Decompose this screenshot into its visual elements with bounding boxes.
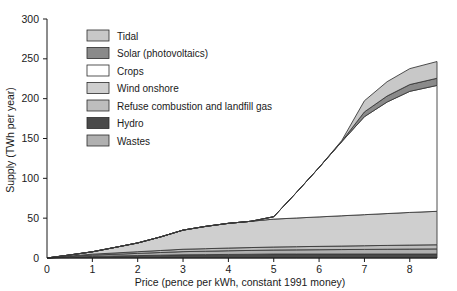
legend-label-hydro: Hydro [117,118,144,129]
y-tick-label: 150 [21,132,39,144]
x-tick-labels-group: 012345678 [44,258,413,275]
x-tick-label: 1 [89,263,95,275]
legend-swatch-crops [87,65,109,76]
y-tick-label: 200 [21,92,39,104]
legend-label-wastes: Wastes [117,136,150,147]
chart-container: 012345678 050100150200250300 Supply (TWh… [0,0,457,291]
legend-label-crops: Crops [117,66,144,77]
x-tick-label: 0 [44,263,50,275]
supply-price-area-chart: 012345678 050100150200250300 Supply (TWh… [0,0,457,291]
y-tick-label: 50 [27,212,39,224]
legend-swatch-wastes [87,135,109,146]
legend-swatch-tidal [87,30,109,41]
y-tick-labels-group: 050100150200250300 [21,13,47,264]
legend-swatch-solar-photovoltaics [87,48,109,59]
y-tick-label: 0 [33,252,39,264]
x-tick-label: 6 [316,263,322,275]
x-tick-label: 4 [225,263,231,275]
y-tick-label: 250 [21,52,39,64]
y-tick-label: 300 [21,13,39,25]
y-tick-label: 100 [21,172,39,184]
chart-legend: TidalSolar (photovoltaics)CropsWind onsh… [87,30,272,147]
x-tick-label: 2 [135,263,141,275]
x-axis-title: Price (pence per kWh, constant 1991 mone… [135,276,346,288]
legend-label-wind-onshore: Wind onshore [117,83,179,94]
legend-label-tidal: Tidal [117,31,138,42]
legend-swatch-wind-onshore [87,83,109,94]
legend-label-refuse-combustion-and-landfill-gas: Refuse combustion and landfill gas [117,101,272,112]
x-tick-label: 8 [407,263,413,275]
legend-swatch-refuse-combustion-and-landfill-gas [87,100,109,111]
x-tick-label: 3 [180,263,186,275]
legend-label-solar-photovoltaics: Solar (photovoltaics) [117,48,208,59]
y-axis-title: Supply (TWh per year) [4,87,16,193]
x-tick-label: 5 [271,263,277,275]
legend-swatch-hydro [87,118,109,129]
x-tick-label: 7 [362,263,368,275]
